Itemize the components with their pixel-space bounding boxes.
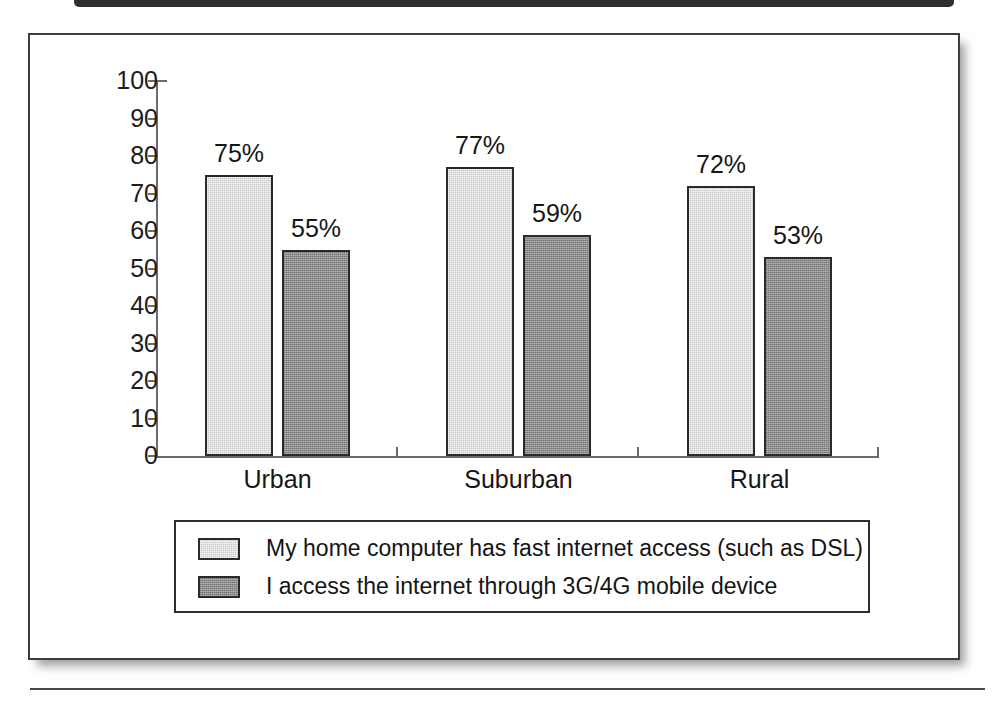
legend-entry-0: My home computer has fast internet acces…	[198, 537, 863, 560]
scan-artifact-top-edge	[74, 0, 954, 7]
x-axis-line	[156, 456, 879, 458]
bar-value-label: 75%	[214, 141, 264, 166]
legend-swatch-icon-series-1	[198, 576, 240, 598]
bar-slot: 55%	[282, 35, 350, 456]
bar-value-label: 59%	[532, 201, 582, 226]
bar-value-label: 72%	[696, 152, 746, 177]
bar-chart: 1009080706050403020100 75%55%77%59%72%53…	[30, 35, 958, 658]
bar-urban-series-1[interactable]	[282, 250, 350, 456]
bar-rural-series-1[interactable]	[764, 257, 832, 456]
bar-slot: 77%	[446, 35, 514, 456]
category-label-rural: Rural	[659, 467, 860, 492]
chart-page-frame: 1009080706050403020100 75%55%77%59%72%53…	[28, 33, 960, 660]
bar-rural-series-0[interactable]	[687, 186, 755, 456]
bar-slot: 53%	[764, 35, 832, 456]
bar-urban-series-0[interactable]	[205, 175, 273, 456]
bar-value-label: 53%	[773, 223, 823, 248]
bars-layer: 75%55%77%59%72%53%	[30, 35, 958, 456]
legend-label-series-0: My home computer has fast internet acces…	[266, 537, 863, 560]
category-label-suburban: Suburban	[418, 467, 619, 492]
bar-suburban-series-0[interactable]	[446, 167, 514, 456]
bar-value-label: 77%	[455, 133, 505, 158]
bar-suburban-series-1[interactable]	[523, 235, 591, 456]
bar-slot: 75%	[205, 35, 273, 456]
chart-legend: My home computer has fast internet acces…	[174, 520, 870, 613]
bar-slot: 72%	[687, 35, 755, 456]
legend-swatch-icon-series-0	[198, 538, 240, 560]
legend-label-series-1: I access the internet through 3G/4G mobi…	[266, 575, 777, 598]
bar-slot: 59%	[523, 35, 591, 456]
legend-entry-1: I access the internet through 3G/4G mobi…	[198, 575, 777, 598]
page-bottom-rule	[30, 688, 985, 690]
category-label-urban: Urban	[177, 467, 378, 492]
bar-value-label: 55%	[291, 216, 341, 241]
